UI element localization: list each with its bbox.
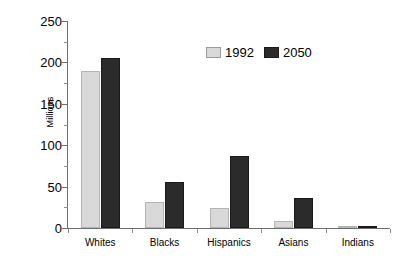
x-axis-tick (68, 229, 69, 233)
y-axis-tick-labels: 050100150200250 (26, 0, 62, 270)
y-axis-tick-label: 250 (28, 15, 62, 28)
bar-2050-indians (358, 226, 377, 228)
bar-2050-whites (101, 58, 120, 228)
bar-group (338, 21, 377, 228)
bar-1992-indians (338, 226, 357, 228)
x-axis-tick-label: Indians (318, 237, 398, 249)
legend-entry-1992: 1992 (206, 46, 254, 59)
bar-2050-blacks (165, 182, 184, 228)
x-axis-tick (390, 229, 391, 233)
light-gray-swatch-icon (206, 47, 221, 58)
x-axis-tick (197, 229, 198, 233)
y-axis-tick-label: 50 (28, 181, 62, 194)
y-axis-tick-label: 150 (28, 98, 62, 111)
legend-label-1992: 1992 (225, 46, 254, 59)
bar-1992-whites (81, 71, 100, 228)
x-axis-tick (326, 229, 327, 233)
bar-1992-hispanics (210, 208, 229, 228)
legend-label-2050: 2050 (283, 46, 312, 59)
bar-group (81, 21, 120, 228)
x-axis-tick (261, 229, 262, 233)
y-axis-tick-label: 100 (28, 139, 62, 152)
bar-2050-hispanics (230, 156, 249, 228)
bar-1992-asians (274, 221, 293, 228)
y-axis-tick-label: 200 (28, 56, 62, 69)
chart-legend: 1992 2050 (206, 46, 312, 59)
bar-1992-blacks (145, 202, 164, 228)
legend-entry-2050: 2050 (264, 46, 312, 59)
dark-swatch-icon (264, 47, 279, 58)
x-axis-tick (132, 229, 133, 233)
bar-2050-asians (294, 198, 313, 228)
y-axis-tick-label: 0 (28, 222, 62, 235)
bar-group (145, 21, 184, 228)
bar-chart-figure: Millions 050100150200250 WhitesBlacksHis… (0, 0, 406, 270)
x-axis-line (67, 228, 390, 229)
